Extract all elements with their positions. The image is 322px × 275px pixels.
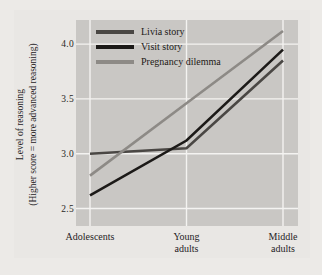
x-axis-tick-label: Middleadults — [238, 231, 322, 255]
x-axis-tick-line: adults — [238, 243, 322, 255]
y-axis-tick-label: 2.5 — [44, 204, 74, 214]
legend-item: Pregnancy dilemma — [96, 54, 246, 69]
y-axis-title-line2: (Higher score = more advanced reasoning) — [26, 25, 39, 225]
legend-label: Pregnancy dilemma — [141, 56, 221, 67]
x-axis-ticks: AdolescentsYoungadultsMiddleadults — [0, 231, 322, 271]
legend-swatch-icon — [96, 45, 134, 49]
x-axis-tick-label: Adolescents — [45, 231, 135, 243]
y-axis-tick-label: 4.0 — [44, 39, 74, 49]
legend-swatch-icon — [96, 30, 134, 34]
y-axis-tick-label: 3.0 — [44, 149, 74, 159]
legend-label: Livia story — [141, 26, 185, 37]
legend-swatch-icon — [96, 60, 134, 64]
legend-label: Visit story — [141, 41, 182, 52]
figure: Level of reasoning (Higher score = more … — [0, 0, 322, 275]
legend-item: Visit story — [96, 39, 246, 54]
y-axis-title: Level of reasoning (Higher score = more … — [14, 25, 39, 225]
x-axis-tick-line: Middle — [238, 231, 322, 243]
y-axis-title-line1: Level of reasoning — [14, 25, 27, 225]
x-axis-tick-line: Young — [142, 231, 232, 243]
legend-item: Livia story — [96, 24, 246, 39]
y-axis-tick-label: 3.5 — [44, 94, 74, 104]
x-axis-tick-label: Youngadults — [142, 231, 232, 255]
x-axis-tick-line: adults — [142, 243, 232, 255]
x-axis-tick-line: Adolescents — [45, 231, 135, 243]
chart-legend: Livia storyVisit storyPregnancy dilemma — [96, 24, 246, 69]
